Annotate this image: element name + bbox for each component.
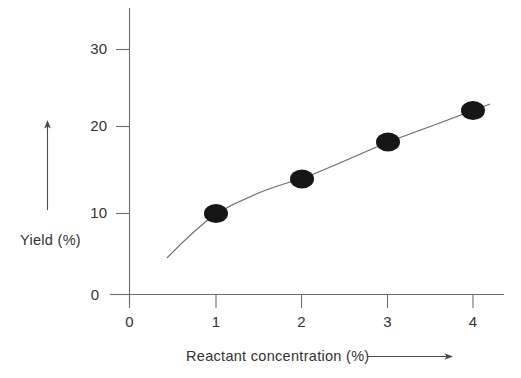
y-tick-label-10: 10	[90, 204, 107, 221]
data-point-2	[290, 170, 314, 189]
x-tick-label-0: 0	[125, 313, 133, 330]
x-axis-title: Reactant concentration (%)	[186, 348, 370, 364]
x-tick-label-1: 1	[212, 313, 220, 330]
x-tick-label-2: 2	[297, 313, 305, 330]
x-tick-label-3: 3	[383, 313, 391, 330]
x-tick-label-4: 4	[469, 313, 477, 330]
chart-figure: 30 20 10 0 0 1 2 3 4 Yield (%) Reactant …	[0, 0, 521, 378]
data-point-4	[461, 101, 485, 120]
y-tick-label-30: 30	[90, 40, 107, 57]
chart-background	[0, 0, 521, 378]
y-tick-label-20: 20	[90, 117, 107, 134]
y-tick-label-0: 0	[91, 286, 99, 303]
data-point-3	[376, 133, 400, 152]
y-axis-title: Yield (%)	[20, 232, 81, 248]
data-point-1	[204, 204, 228, 223]
